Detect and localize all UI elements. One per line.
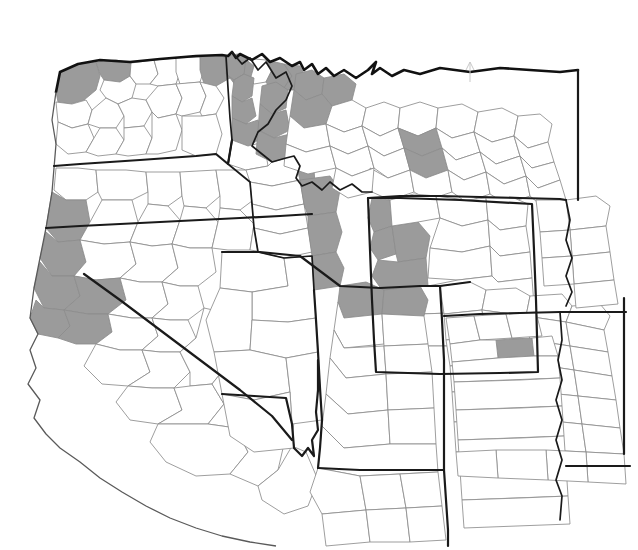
county [586,452,626,484]
county-shaded [56,62,100,104]
county [566,196,610,230]
county [146,112,182,154]
county [214,350,290,400]
county [366,508,410,542]
county [220,252,288,292]
county [456,406,564,440]
county [182,114,222,156]
county [388,408,436,444]
county [406,506,446,542]
county [400,472,442,508]
county [96,170,148,200]
county [542,256,574,286]
county [572,252,614,284]
county [180,170,220,208]
county [496,450,548,480]
county [54,168,98,200]
county [384,344,432,374]
county [454,378,562,410]
county [570,226,610,256]
county-shaded [308,212,342,256]
county [206,288,252,352]
county [578,396,620,428]
county [386,372,434,410]
county [130,204,180,246]
county [322,510,370,546]
county [474,314,512,340]
county [456,450,498,478]
county [582,424,624,454]
county-shaded [496,338,534,358]
county [212,208,254,250]
county [146,172,182,206]
county [172,206,218,248]
county [462,496,570,528]
county [536,200,570,232]
county-shaded [382,286,428,316]
county-shaded [392,222,430,262]
county [440,282,486,314]
county [382,314,428,346]
map-container: Western United States county choropleth … [0,0,638,550]
choropleth-map [0,0,638,550]
county [574,280,618,308]
county [360,474,406,510]
